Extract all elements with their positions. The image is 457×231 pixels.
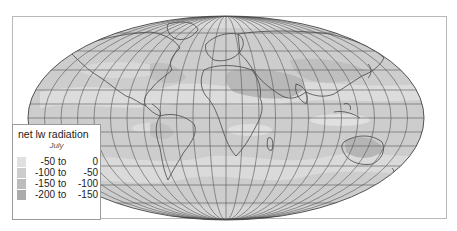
legend-item: -200 to -150 [17,190,99,201]
legend-title: net lw radiation [18,128,89,140]
legend-item-to: to [58,189,66,200]
legend: net lw radiation July -50 to 0 -100 to -… [12,124,101,220]
legend-item-to: to [58,156,66,167]
legend-swatch [17,157,26,167]
legend-swatch [17,168,26,178]
legend-item-to: to [58,178,66,189]
legend-item-upto: -100 [69,178,98,189]
legend-item-from: -50 [27,156,55,167]
legend-item-from: -150 [27,178,55,189]
legend-item-to: to [58,167,66,178]
legend-item-upto: 0 [69,156,98,167]
legend-item-from: -100 [27,167,55,178]
legend-item-upto: -50 [69,167,98,178]
legend-swatch [17,179,26,189]
legend-item-upto: -150 [69,189,98,200]
legend-swatch [17,190,26,200]
legend-subtitle: July [13,141,100,150]
legend-item-from: -200 [27,189,55,200]
